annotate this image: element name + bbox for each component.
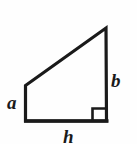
side-label-h: h: [63, 127, 74, 144]
right-angle-square-icon: [93, 109, 107, 122]
trapezoid-outline: [26, 28, 107, 121]
side-label-b: b: [111, 71, 121, 90]
geometry-figure: a b h: [0, 0, 137, 144]
side-label-a: a: [7, 93, 17, 112]
